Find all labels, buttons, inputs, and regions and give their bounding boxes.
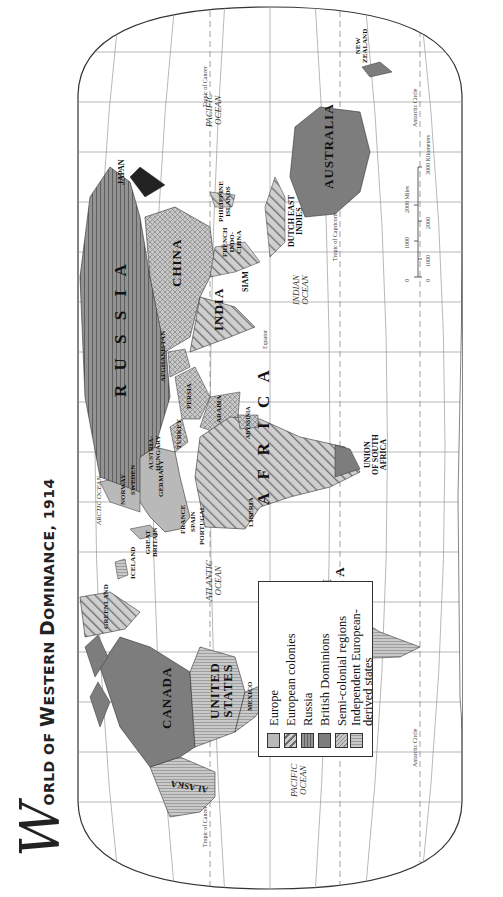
label-india: INDIA (212, 288, 225, 331)
label-siam: SIAM (242, 271, 250, 292)
label-antarctic-circle-east: Antarctic Circle (412, 89, 418, 127)
scale-miles-2000: 2000 Miles (404, 186, 410, 213)
label-afghanistan: AFGHANISTAN (160, 331, 167, 382)
rotated-map-canvas: W ORLD OF WESTERN DOMINANCE, 1914 (0, 0, 503, 897)
label-equator-east: Equator (262, 330, 268, 349)
label-spain: SPAIN (190, 512, 197, 532)
label-arctic-ocean: ARCTIC OCEAN (96, 476, 103, 525)
label-persia: PERSIA (186, 383, 193, 409)
label-liberia: LIBERIA (248, 497, 255, 527)
swatch-european-colonies (284, 733, 297, 748)
scale-km-1000: 1000 (425, 255, 431, 267)
legend-item-european-colonies: European colonies (282, 590, 299, 748)
label-france: FRANCE (180, 505, 187, 534)
scale-miles-0: 0 (404, 279, 410, 282)
label-pacific-ocean-west: PACIFICOCEAN (290, 764, 308, 797)
label-canada: CANADA (160, 667, 173, 729)
label-sweden: SWEDEN (130, 465, 137, 495)
label-tropic-cancer-east: Tropic of Cancer (202, 66, 208, 107)
legend-item-british-dominions: British Dominions (316, 590, 333, 748)
label-portugal: PORTUGAL (199, 506, 206, 545)
label-tropic-capricorn: Tropic of Capricorn (332, 213, 338, 261)
label-arabia: ARABIA (216, 395, 223, 423)
label-great-britain: GREATBRITAIN (145, 528, 159, 557)
label-austria-hungary: AUSTRIA-HUNGARY (148, 435, 162, 471)
label-norway: NORWAY (120, 474, 127, 505)
label-union-of-south-africa: UNIONOF SOUTHAFRICA (364, 434, 388, 475)
scale-km-0: 0 (425, 279, 431, 282)
label-japan: JAPAN (118, 159, 126, 185)
label-new-zealand: NEWZEALAND (355, 29, 369, 63)
label-united-states: UNITEDSTATES (208, 662, 234, 719)
swatch-british-dominions (318, 733, 331, 748)
label-turkey: TURKEY (176, 419, 183, 449)
label-antarctic-circle-west: Antarctic Circle (412, 729, 418, 767)
label-australia: AUSTRALIA (322, 103, 335, 189)
legend-item-semi-colonial: Semi-colonial regions (333, 590, 350, 748)
swatch-russia (301, 733, 314, 748)
label-iceland: ICELAND (130, 547, 137, 579)
swatch-europe (267, 733, 280, 748)
label-abyssinia: ABYSSINIA (245, 406, 251, 439)
label-africa: A F R I C A (255, 365, 272, 505)
label-philippine-islands: PHILIPPINEISLANDS (218, 181, 232, 222)
label-russia: R U S S I A (112, 259, 129, 397)
legend-item-europe: Europe (265, 590, 282, 748)
label-french-indochina: FRENCHINDO-CHINA (222, 227, 243, 257)
label-mexico: MEXICO (247, 681, 254, 711)
label-china: CHINA (170, 239, 183, 287)
map-stage: W ORLD OF WESTERN DOMINANCE, 1914 (0, 0, 503, 897)
scale-km-3000: 3000 Kilometers (425, 135, 431, 175)
swatch-semi-colonial (335, 733, 348, 748)
label-dutch-east-indies: DUTCH EASTINDIES (288, 195, 304, 247)
legend-item-independent-european-derived: Independent European-derived states (350, 590, 376, 748)
legend-item-russia: Russia (299, 590, 316, 748)
map-legend: Europe European colonies Russia British … (258, 581, 373, 757)
swatch-independent (350, 733, 363, 748)
scale-km-2000: 2000 (425, 217, 431, 229)
label-greenland: GREENLAND (103, 584, 110, 629)
label-tropic-cancer-west: Tropic of Cancer (202, 806, 208, 847)
label-indian-ocean: INDIANOCEAN (292, 275, 310, 305)
scale-miles-1000: 1000 (404, 237, 410, 249)
label-atlantic-ocean: ATLANTICOCEAN (205, 560, 223, 601)
